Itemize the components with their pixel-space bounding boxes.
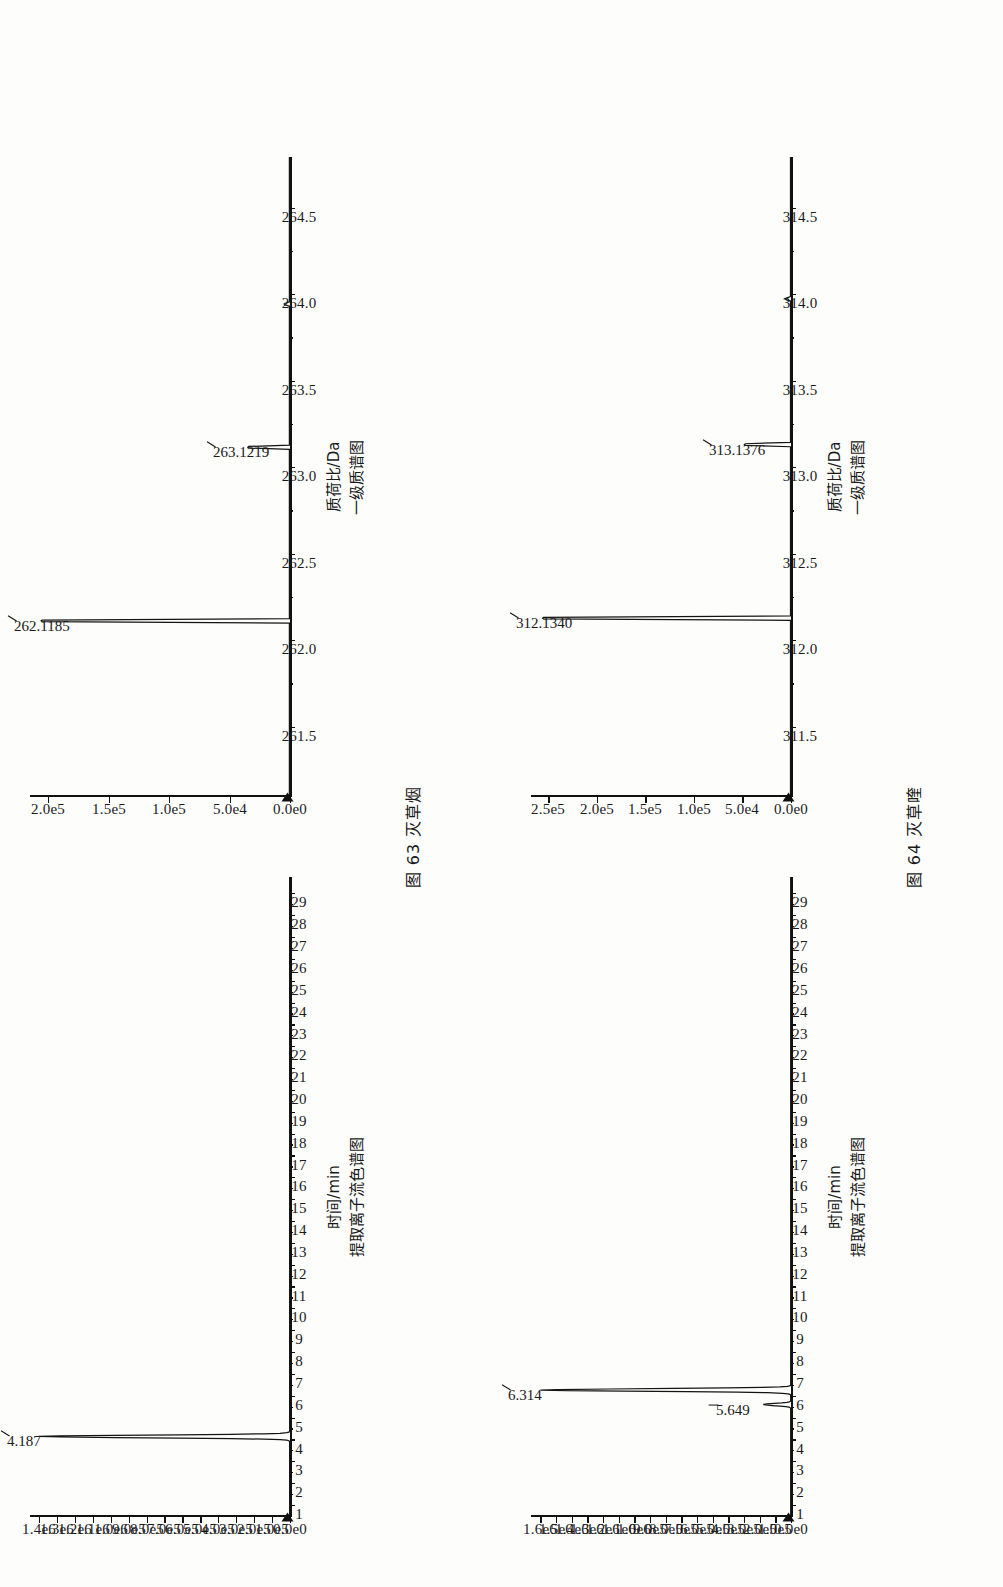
y-tick-label: 0.0e0: [273, 801, 307, 818]
x-tick-label: 6: [796, 1397, 804, 1414]
x-tick-label: 24: [291, 1004, 306, 1021]
x-tick-label: 314.5: [783, 209, 818, 226]
figure-63: 时间/min 提取离子流色谱图 123456789101112131415161…: [0, 0, 501, 1587]
y-tick-label: 2.0e5: [31, 801, 65, 818]
peak-label: 263.1219: [213, 444, 269, 461]
x-tick-minor: [791, 251, 794, 252]
peak-label: 312.1340: [516, 615, 572, 632]
panel-ms-64: 质荷比/Da 一级质谱图 311.5312.0312.5313.0313.531…: [531, 157, 831, 797]
x-tick-minor: [791, 683, 794, 684]
y-tick-label: 1.5e5: [92, 801, 126, 818]
x-tick-label: 21: [792, 1069, 807, 1086]
x-tick-minor: [791, 1144, 794, 1145]
x-axis-title: 质荷比/Da: [322, 442, 343, 513]
x-tick-label: 264.5: [282, 209, 317, 226]
x-tick-minor: [791, 1363, 794, 1364]
x-tick-label: 23: [792, 1026, 807, 1043]
y-axis-line: [531, 795, 791, 797]
x-tick-label: 29: [792, 894, 807, 911]
peak-label: 262.1185: [14, 618, 70, 635]
x-tick-minor: [791, 926, 794, 927]
x-tick-label: 11: [793, 1288, 808, 1305]
x-tick-label: 5: [796, 1419, 804, 1436]
scanned-page: 时间/min 提取离子流色谱图 123456789101112131415161…: [0, 0, 1003, 1587]
x-tick-label: 19: [792, 1113, 807, 1130]
x-tick-minor: [791, 1341, 794, 1342]
x-tick-label: 20: [291, 1091, 306, 1108]
x-tick-minor: [791, 1385, 794, 1386]
x-tick-label: 3: [796, 1462, 804, 1479]
x-tick-minor: [290, 1407, 293, 1408]
x-tick-minor: [290, 1123, 293, 1124]
x-tick-label: 27: [291, 938, 306, 955]
x-tick-label: 28: [792, 916, 807, 933]
x-tick-minor: [290, 1254, 293, 1255]
x-tick-minor: [290, 1385, 293, 1386]
y-axis-line: [30, 1515, 290, 1517]
y-tick-label: 2.5e5: [531, 801, 565, 818]
x-tick-minor: [791, 337, 794, 338]
x-tick-label: 29: [291, 894, 306, 911]
x-tick-label: 8: [295, 1353, 303, 1370]
y-tick-label: 1.0e5: [677, 801, 711, 818]
x-tick-label: 18: [291, 1135, 306, 1152]
x-tick-label: 17: [291, 1157, 306, 1174]
x-tick-minor: [791, 970, 794, 971]
x-tick-minor: [791, 1079, 794, 1080]
x-tick-label: 9: [796, 1331, 804, 1348]
x-tick-label: 261.5: [282, 728, 317, 745]
x-tick-minor: [791, 1407, 794, 1408]
y-tick-label: 5.0e4: [726, 801, 760, 818]
x-tick-label: 12: [291, 1266, 306, 1283]
x-tick-label: 14: [291, 1222, 306, 1239]
x-tick-minor: [791, 992, 794, 993]
figure-caption: 图 63 灭草烟: [400, 786, 424, 889]
x-tick-minor: [290, 992, 293, 993]
panel-title: 提取离子流色谱图: [846, 1137, 867, 1257]
x-tick-label: 2: [295, 1484, 303, 1501]
x-tick-minor: [290, 597, 293, 598]
peak-label: 313.1376: [709, 442, 765, 459]
x-tick-label: 311.5: [783, 728, 817, 745]
x-tick-label: 4: [295, 1441, 303, 1458]
x-tick-minor: [290, 1166, 293, 1167]
x-tick-label: 27: [792, 938, 807, 955]
y-tick-label: 5.0e4: [213, 801, 247, 818]
x-tick-minor: [290, 510, 293, 511]
x-tick-label: 28: [291, 916, 306, 933]
x-tick-label: 10: [792, 1310, 807, 1327]
panel-xic-64: 时间/min 提取离子流色谱图 123456789101112131415161…: [531, 877, 831, 1517]
x-tick-label: 7: [295, 1375, 303, 1392]
x-tick-minor: [791, 1101, 794, 1102]
peak-label: 6.314: [508, 1387, 542, 1404]
x-tick-label: 16: [291, 1178, 306, 1195]
x-tick-minor: [290, 1101, 293, 1102]
x-tick-minor: [290, 1210, 293, 1211]
x-tick-label: 20: [792, 1091, 807, 1108]
y-tick-label: 1.0e5: [152, 801, 186, 818]
x-tick-label: 26: [792, 960, 807, 977]
x-tick-minor: [290, 1297, 293, 1298]
x-tick-minor: [290, 1276, 293, 1277]
x-tick-label: 13: [792, 1244, 807, 1261]
x-tick-label: 10: [291, 1310, 306, 1327]
x-tick-label: 24: [792, 1004, 807, 1021]
x-tick-label: 14: [792, 1222, 807, 1239]
figure-64: 时间/min 提取离子流色谱图 123456789101112131415161…: [501, 0, 1003, 1587]
panel-title: 一级质谱图: [846, 440, 867, 515]
data-trace: [39, 877, 290, 1517]
x-tick-minor: [290, 1035, 293, 1036]
y-axis-line: [30, 795, 290, 797]
x-tick-minor: [290, 1341, 293, 1342]
y-tick-label: 2.0e5: [580, 801, 614, 818]
x-tick-minor: [791, 1428, 794, 1429]
x-tick-minor: [290, 904, 293, 905]
x-tick-minor: [791, 1450, 794, 1451]
x-tick-minor: [791, 904, 794, 905]
data-trace: [41, 157, 289, 797]
x-tick-minor: [290, 337, 293, 338]
x-tick-minor: [290, 683, 293, 684]
x-tick-label: 2: [796, 1484, 804, 1501]
x-tick-minor: [791, 1494, 794, 1495]
x-tick-label: 312.0: [783, 641, 818, 658]
